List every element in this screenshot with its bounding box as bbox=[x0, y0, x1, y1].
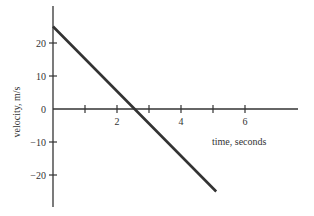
y-tick-label: −10 bbox=[30, 137, 46, 148]
velocity-time-chart: 24620100−10−20 time, seconds velocity, m… bbox=[0, 0, 314, 216]
y-tick-label: 10 bbox=[36, 71, 46, 82]
y-axis-label: velocity, m/s bbox=[11, 86, 22, 137]
x-tick-label: 4 bbox=[179, 116, 184, 127]
y-tick-label: 0 bbox=[41, 104, 46, 115]
x-tick-label: 6 bbox=[243, 116, 248, 127]
x-tick-label: 2 bbox=[115, 116, 120, 127]
x-axis-label: time, seconds bbox=[212, 136, 267, 147]
y-tick-label: −20 bbox=[30, 170, 46, 181]
y-tick-label: 20 bbox=[36, 38, 46, 49]
